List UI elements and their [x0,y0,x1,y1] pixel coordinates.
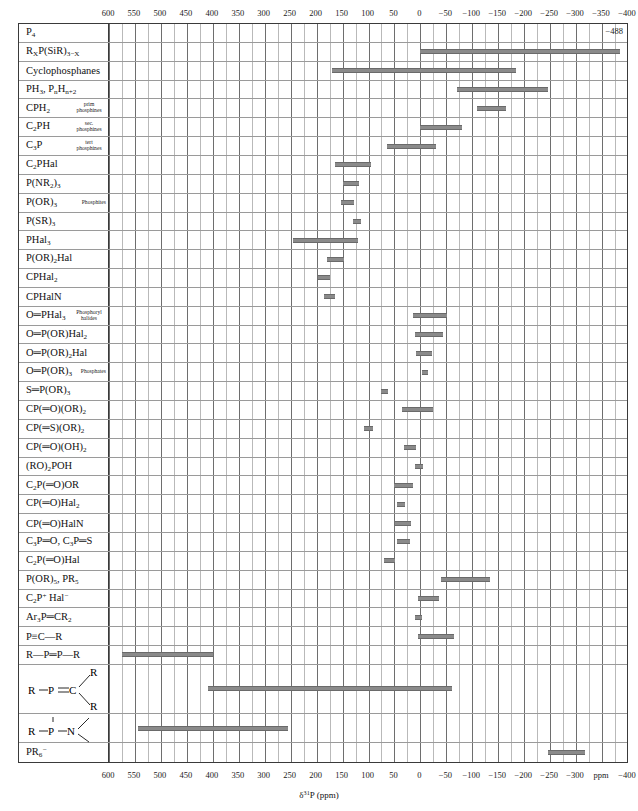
axis-top-tick-300: 300 [257,6,270,20]
shift-range-bar-ar3p-cr2 [415,615,422,620]
axis-top-tick-0: 0 [417,6,421,20]
chart-row-cyclophosphanes: Cyclophosphanes [19,62,627,81]
chart-row-p-c-r: P≡C—R [19,627,627,646]
shift-range-bar-cps-or2 [364,426,372,431]
chart-row-c2p-hal: C2P+ Hal− [19,590,627,609]
axis-bottom-tick-neg400: −400 [618,768,636,782]
shift-range-bar-por5-pr5 [441,577,490,582]
row-label-text: PH3, PnHn+2 [26,83,76,96]
shift-range-bar-cyclophosphanes [332,68,516,73]
row-label-cpo-hal2: CP(═O)Hal2 [19,495,109,513]
row-label-text: CP(═O)(OH)2 [26,441,87,454]
axis-bottom-tick-600: 600 [102,768,115,782]
shift-range-bar-pnr23 [343,181,360,186]
row-label-c2p-hal: C2P+ Hal− [19,590,109,608]
row-label-cphaln: CPHalN [19,288,109,306]
row-sublabel-por3: Phosphites [82,200,107,206]
row-label-text: RXP(SiR)3−X [26,45,80,58]
row-label-c2po-or: C2P(═O)OR [19,476,109,494]
axis-top-tick-600: 600 [102,6,115,20]
row-label-cpo-haln: CP(═O)HalN [19,514,109,532]
chart-row-r-p-nr2: RPN [19,714,627,743]
shift-range-bar-ph3 [457,87,548,92]
row-label-text: C2PH [26,120,50,133]
chart-row-opor2hal: O═P(OR)2Hal [19,344,627,363]
axis-bottom-tick-neg300: −300 [566,768,584,782]
row-label-text: C2P(═O)Hal [26,554,80,567]
axis-top-tick-100: 100 [361,6,374,20]
axis-bottom-tick-neg150: −150 [488,768,506,782]
svg-text:R: R [28,684,36,696]
row-label-text: O═P(OR)3 [26,365,72,378]
shift-range-bar-cpo-or2 [402,407,433,412]
axis-bottom-tick-500: 500 [154,768,167,782]
chart-frame: P4−488RXP(SiR)3−XCyclophosphanesPH3, PnH… [18,23,628,763]
row-label-text: C2P(═O)OR [26,479,79,492]
axis-bottom-tick-neg200: −200 [514,768,532,782]
row-label-c2po-hal: C2P(═O)Hal [19,552,109,570]
row-label-ar3p-cr2: Ar3P═CR2 [19,608,109,626]
axis-bottom-tick-neg50: −50 [439,768,452,782]
shift-range-bar-cph2 [477,106,506,111]
row-label-c3po-c3ps: C3P═O, C3P═S [19,533,109,551]
shift-range-bar-cphaln [324,294,334,299]
row-label-text: P(SR)3 [26,215,55,228]
svg-text:C: C [69,684,76,696]
row-label-text: CP(═O)(OR)2 [26,403,86,416]
row-label-c2phal: C2PHal [19,156,109,174]
chart-row-oporhal2: O═P(OR)Hal2 [19,326,627,345]
chart-row-c2ph: C2PHsec. phosphines [19,118,627,137]
axis-bottom: 600550500450400350300250200150100500−50−… [0,768,638,782]
chart-row-cps-or2: CP(═S)(OR)2 [19,420,627,439]
shift-range-bar-r-p-p-r [122,652,213,657]
row-sublabel-cph2: prim phosphines [72,102,107,114]
axis-bottom-tick-0: 0 [417,768,421,782]
chart-row-ph3: PH3, PnHn+2 [19,81,627,100]
row-label-text: CPH2 [26,102,50,115]
row-label-text: Cyclophosphanes [26,65,100,76]
chart-row-pnr23: P(NR2)3 [19,175,627,194]
axis-top-tick-neg150: −150 [488,6,506,20]
shift-range-bar-phal3 [293,238,358,243]
axis-bottom-tick-400: 400 [205,768,218,782]
axis-bottom-tick-450: 450 [179,768,192,782]
shift-range-bar-c3p [387,144,436,149]
chart-row-rxp-sir: RXP(SiR)3−X [19,43,627,62]
row-label-cyclophosphanes: Cyclophosphanes [19,62,109,80]
row-label-cph2: CPH2prim phosphines [19,99,109,117]
chart-row-ro2poh: (RO)2POH [19,458,627,477]
shift-range-bar-c3po-c3ps [397,539,410,544]
chart-row-pr6: PR6− [19,743,627,762]
row-label-opor2hal: O═P(OR)2Hal [19,344,109,362]
chart-row-r-p-p-r: R—P═P—R [19,646,627,665]
row-label-text: C3P [26,139,42,152]
shift-range-bar-cpo-haln [395,521,411,526]
chart-row-cpo-oh2: CP(═O)(OH)2 [19,439,627,458]
row-label-text: O═P(OR)Hal2 [26,328,87,341]
row-label-text: (RO)2POH [26,460,72,473]
row-label-psr3: P(SR)3 [19,213,109,231]
row-label-c3p: C3Ptert phosphines [19,137,109,155]
shift-range-bar-cphal2 [318,275,330,280]
shift-range-bar-cpo-oh2 [404,445,416,450]
row-label-spor3: S═P(OR)3 [19,382,109,400]
shift-range-bar-oporhal2 [415,332,443,337]
row-label-text: CPHal2 [26,271,58,284]
row-label-text: P≡C—R [26,631,62,642]
row-sublabel-c2ph: sec. phosphines [72,121,107,133]
chart-row-cpo-haln: CP(═O)HalN [19,514,627,533]
axis-bottom-tick-neg250: −250 [540,768,558,782]
chart-row-cphaln: CPHalN [19,288,627,307]
axis-top-tick-50: 50 [389,6,398,20]
axis-bottom-tick-550: 550 [128,768,141,782]
row-label-text: CP(═O)Hal2 [26,497,80,510]
row-label-ophal3: O═PHal3Phosphoryl halides [19,307,109,325]
axis-bottom-tick-150: 150 [335,768,348,782]
row-label-cphal2: CPHal2 [19,269,109,287]
shift-range-bar-c2po-or [394,483,412,488]
row-label-p-c-r: P≡C—R [19,627,109,645]
svg-text:N: N [67,725,75,737]
chart-row-ophal3: O═PHal3Phosphoryl halides [19,307,627,326]
row-label-text: CPHalN [26,291,62,302]
row-label-text: C3P═O, C3P═S [26,535,92,548]
